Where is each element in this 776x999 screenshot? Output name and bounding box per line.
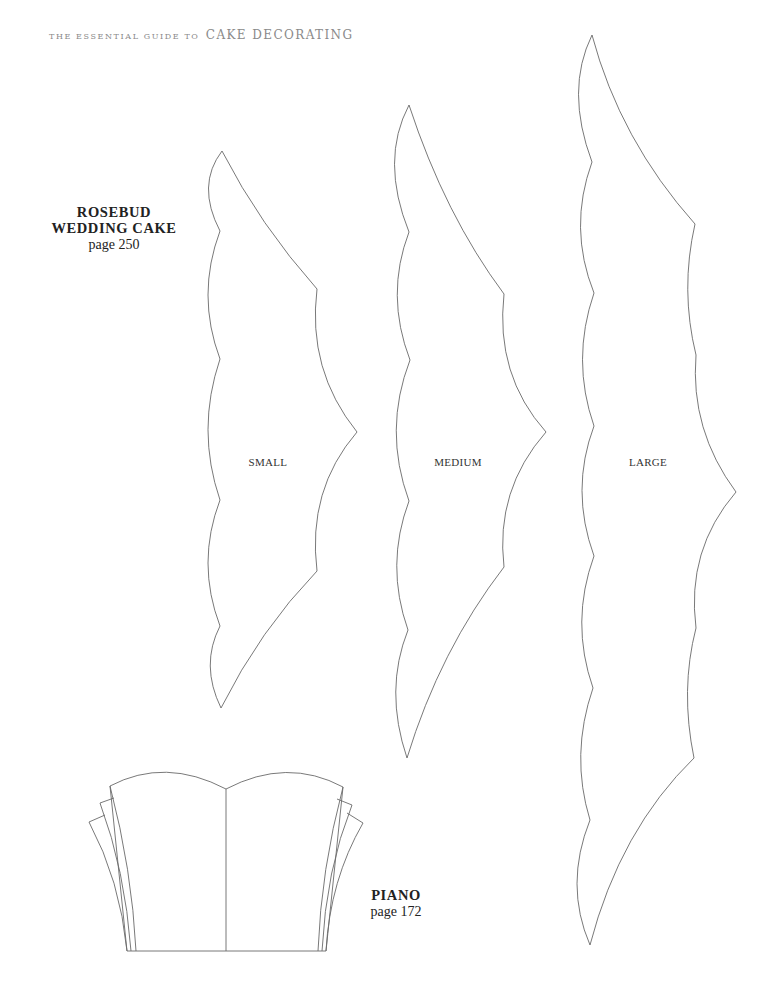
rosebud-page-ref: page 250 [51, 236, 176, 253]
rosebud-title-line1: ROSEBUD [51, 204, 176, 220]
rosebud-title-line2: WEDDING CAKE [51, 220, 176, 236]
large-petal-outline [577, 35, 736, 945]
medium-petal-outline [395, 105, 547, 758]
medium-size-label: MEDIUM [434, 456, 482, 468]
small-size-label: SMALL [249, 456, 288, 468]
large-size-label: LARGE [629, 456, 667, 468]
rosebud-caption: ROSEBUD WEDDING CAKE page 250 [51, 204, 176, 253]
template-artwork [0, 0, 776, 999]
piano-caption: PIANO page 172 [371, 887, 422, 920]
piano-title: PIANO [371, 887, 422, 903]
piano-page-ref: page 172 [371, 903, 422, 920]
small-petal-outline [208, 151, 357, 708]
piano-outline [89, 772, 363, 951]
